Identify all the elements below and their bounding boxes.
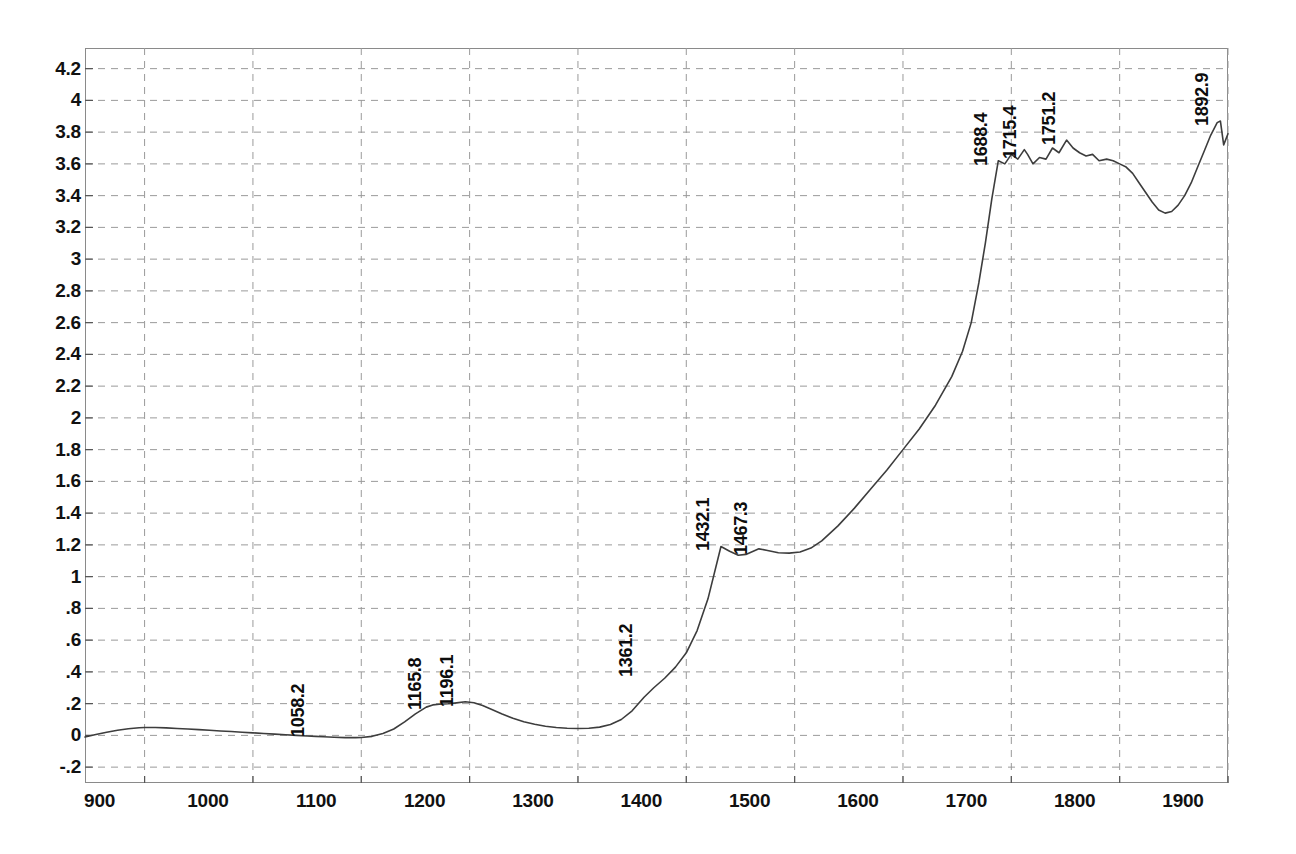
x-tick-label: 1400 <box>596 790 686 812</box>
y-tick-label: 4.2 <box>19 58 81 80</box>
y-tick-label: 3.8 <box>19 121 81 143</box>
peak-label: 1751.2 <box>1039 92 1060 145</box>
peak-label: 1467.3 <box>731 501 752 554</box>
y-tick-label: 4 <box>19 89 81 111</box>
peak-label: 1058.2 <box>288 684 309 737</box>
peak-label: 1196.1 <box>437 655 458 707</box>
peak-label: 1165.8 <box>405 658 426 710</box>
y-tick-label: 2.2 <box>19 375 81 397</box>
y-tick-marks <box>85 69 93 767</box>
y-tick-label: 2.6 <box>19 312 81 334</box>
y-tick-label: 2.4 <box>19 343 81 365</box>
x-tick-label: 1300 <box>488 790 578 812</box>
y-tick-label: -.2 <box>19 756 81 778</box>
y-tick-label: .8 <box>19 597 81 619</box>
spectrum-chart: 4.243.83.63.43.232.82.62.42.221.81.61.41… <box>0 0 1296 854</box>
y-tick-label: 3.2 <box>19 216 81 238</box>
peak-label: 1715.4 <box>1000 106 1021 159</box>
y-gridlines <box>85 69 1228 767</box>
y-tick-label: 2.8 <box>19 280 81 302</box>
x-tick-label: 1500 <box>705 790 795 812</box>
peak-label: 1892.9 <box>1192 73 1213 126</box>
spectrum-curve <box>85 121 1228 738</box>
y-tick-label: 1.4 <box>19 502 81 524</box>
x-gridlines <box>145 48 1228 783</box>
y-tick-label: 0 <box>19 724 81 746</box>
x-tick-label: 1700 <box>921 790 1011 812</box>
y-tick-label: 2 <box>19 407 81 429</box>
peak-label: 1361.2 <box>616 624 637 677</box>
y-tick-label: .4 <box>19 661 81 683</box>
y-tick-label: 1 <box>19 566 81 588</box>
y-tick-label: 3.6 <box>19 153 81 175</box>
x-tick-label: 900 <box>55 790 145 812</box>
y-tick-label: 3 <box>19 248 81 270</box>
y-tick-label: 3.4 <box>19 185 81 207</box>
y-tick-label: 1.6 <box>19 470 81 492</box>
x-tick-label: 1800 <box>1030 790 1120 812</box>
x-tick-marks <box>145 776 1228 783</box>
x-tick-label: 1600 <box>813 790 903 812</box>
y-tick-label: .2 <box>19 693 81 715</box>
x-tick-label: 1900 <box>1138 790 1228 812</box>
x-tick-label: 1200 <box>380 790 470 812</box>
peak-label: 1688.4 <box>971 112 992 165</box>
y-tick-label: .6 <box>19 629 81 651</box>
x-tick-label: 1000 <box>163 790 253 812</box>
x-tick-label: 1100 <box>271 790 361 812</box>
plot-canvas <box>0 0 1296 854</box>
y-tick-label: 1.8 <box>19 439 81 461</box>
y-tick-label: 1.2 <box>19 534 81 556</box>
peak-label: 1432.1 <box>693 498 714 551</box>
